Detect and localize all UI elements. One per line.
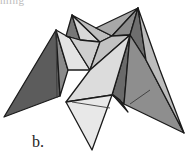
cropped-caption-fragment: ming	[0, 0, 25, 6]
left-spike-outer-face	[4, 30, 60, 117]
bottom-spike-face	[66, 95, 112, 150]
right-spike-mid-face	[124, 35, 184, 133]
panel-label: b.	[32, 134, 44, 150]
folded-star-polyhedron-drawing	[0, 0, 192, 154]
polyhedron-figure: ming b.	[0, 0, 192, 154]
